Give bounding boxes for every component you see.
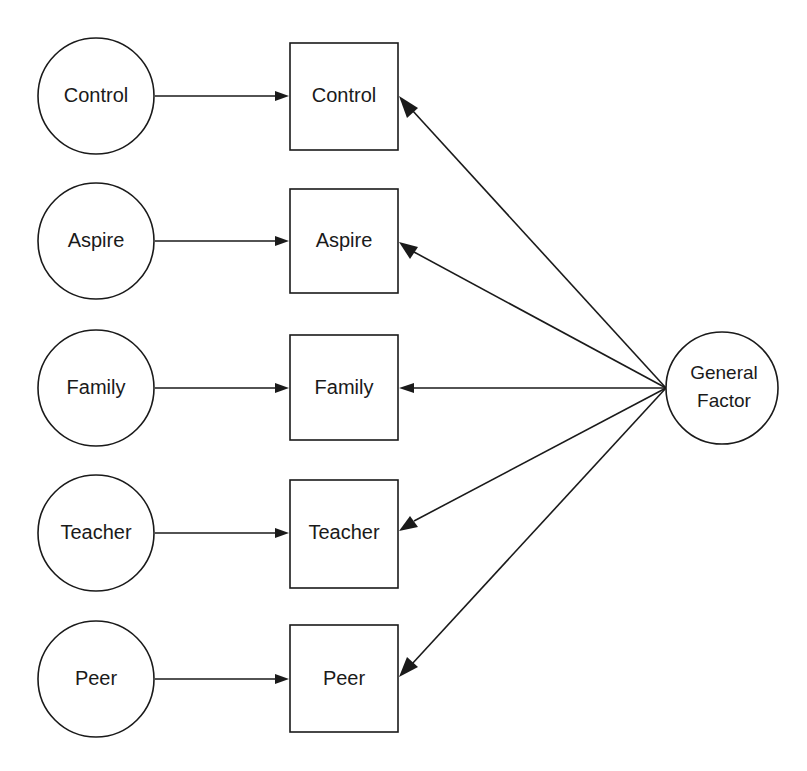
edge-factor-teacher[interactable] <box>399 388 666 531</box>
node-circle-control[interactable]: Control <box>38 38 154 154</box>
circle-aspire-label: Aspire <box>68 229 125 251</box>
box-control-label: Control <box>312 84 376 106</box>
edge-factor-control[interactable] <box>399 96 666 388</box>
node-box-aspire[interactable]: Aspire <box>290 189 398 293</box>
edge-group-latent-to-observed <box>155 91 289 684</box>
box-peer-label: Peer <box>323 667 366 689</box>
edge-factor-aspire[interactable] <box>399 242 666 388</box>
edge-factor-aspire-arrowhead <box>399 242 418 259</box>
circle-teacher-label: Teacher <box>60 521 131 543</box>
circle-family-label: Family <box>67 376 126 398</box>
circle-general-factor-shape <box>666 332 778 444</box>
circle-control-label: Control <box>64 84 128 106</box>
circle-general-factor-label-line-1: General <box>690 362 758 383</box>
edge-aspire-in-arrowhead <box>275 236 289 246</box>
box-teacher-label: Teacher <box>308 521 379 543</box>
box-aspire-label: Aspire <box>316 229 373 251</box>
edge-factor-aspire-line <box>414 252 666 388</box>
path-diagram: Control Aspire Family Teacher Peer <box>0 0 807 771</box>
circle-general-factor-label-line-2: Factor <box>697 390 752 411</box>
edge-factor-family[interactable] <box>399 383 666 393</box>
edge-family-in-arrowhead <box>275 383 289 393</box>
edge-peer-in[interactable] <box>155 674 289 684</box>
node-circle-family[interactable]: Family <box>38 330 154 446</box>
edge-group-factor-to-observed <box>399 96 666 677</box>
node-circle-peer[interactable]: Peer <box>38 621 154 737</box>
box-family-label: Family <box>315 376 374 398</box>
latent-node-group: Control Aspire Family Teacher Peer <box>38 38 154 737</box>
edge-factor-control-line <box>412 110 666 388</box>
edge-control-in-arrowhead <box>275 91 289 101</box>
node-box-family[interactable]: Family <box>290 335 398 440</box>
edge-peer-in-arrowhead <box>275 674 289 684</box>
edge-factor-teacher-line <box>414 388 666 521</box>
edge-aspire-in[interactable] <box>155 236 289 246</box>
path-diagram-canvas: Control Aspire Family Teacher Peer <box>0 0 807 771</box>
edge-control-in[interactable] <box>155 91 289 101</box>
edge-family-in[interactable] <box>155 383 289 393</box>
observed-node-group: Control Aspire Family Teacher Peer <box>290 43 398 732</box>
edge-factor-family-arrowhead <box>399 383 414 393</box>
node-box-peer[interactable]: Peer <box>290 625 398 732</box>
edge-teacher-in-arrowhead <box>275 528 289 538</box>
edge-factor-teacher-arrowhead <box>399 516 418 531</box>
node-circle-aspire[interactable]: Aspire <box>38 183 154 299</box>
circle-peer-label: Peer <box>75 667 118 689</box>
edge-factor-peer-line <box>412 388 666 664</box>
edge-teacher-in[interactable] <box>155 528 289 538</box>
edge-factor-control-arrowhead <box>399 96 418 118</box>
node-circle-teacher[interactable]: Teacher <box>38 475 154 591</box>
node-box-teacher[interactable]: Teacher <box>290 480 398 588</box>
node-circle-general-factor[interactable]: General Factor <box>666 332 778 444</box>
node-box-control[interactable]: Control <box>290 43 398 150</box>
edge-factor-peer[interactable] <box>399 388 666 677</box>
